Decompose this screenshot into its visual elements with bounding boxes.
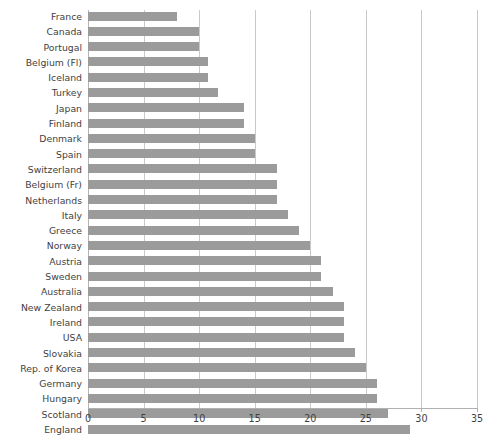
x-axis-tick-labels: 05101520253035	[0, 413, 499, 433]
bar-row: Netherlands	[0, 194, 499, 209]
bar	[88, 394, 377, 403]
bar-row: Finland	[0, 117, 499, 132]
bar	[88, 317, 344, 326]
category-label: Belgium (Fl)	[0, 56, 82, 69]
category-label: Sweden	[0, 270, 82, 283]
bar	[88, 12, 177, 21]
category-label: Italy	[0, 209, 82, 222]
category-label: Finland	[0, 117, 82, 130]
bar-row: Turkey	[0, 86, 499, 101]
category-label: Rep. of Korea	[0, 362, 82, 375]
bar	[88, 287, 333, 296]
bar-row: Belgium (Fr)	[0, 178, 499, 193]
bar	[88, 88, 218, 97]
bar-row: Denmark	[0, 132, 499, 147]
bar-row: Italy	[0, 209, 499, 224]
x-tick-label: 10	[179, 413, 219, 424]
bar-row: New Zealand	[0, 301, 499, 316]
bar	[88, 333, 344, 342]
x-tick-label: 25	[346, 413, 386, 424]
bar-row: Sweden	[0, 270, 499, 285]
category-label: Iceland	[0, 71, 82, 84]
category-label: Turkey	[0, 86, 82, 99]
bar	[88, 272, 321, 281]
category-label: Austria	[0, 255, 82, 268]
category-label: USA	[0, 331, 82, 344]
bar-row: Switzerland	[0, 163, 499, 178]
bar-row: Norway	[0, 239, 499, 254]
category-label: Norway	[0, 239, 82, 252]
bar-row: Japan	[0, 102, 499, 117]
x-tick-label: 0	[68, 413, 108, 424]
category-label: Spain	[0, 148, 82, 161]
bar-row: Iceland	[0, 71, 499, 86]
bar-row: France	[0, 10, 499, 25]
bar-row: USA	[0, 331, 499, 346]
category-label: Ireland	[0, 316, 82, 329]
x-tick-label: 20	[290, 413, 330, 424]
bar	[88, 226, 299, 235]
bar	[88, 348, 355, 357]
bar-row: Slovakia	[0, 347, 499, 362]
bar-row: Portugal	[0, 41, 499, 56]
bar-row: Hungary	[0, 392, 499, 407]
category-label: New Zealand	[0, 301, 82, 314]
bar-row: Australia	[0, 285, 499, 300]
bar	[88, 195, 277, 204]
bar	[88, 149, 255, 158]
bar	[88, 180, 277, 189]
category-label: Netherlands	[0, 194, 82, 207]
category-label: Germany	[0, 377, 82, 390]
bar	[88, 256, 321, 265]
category-label: Slovakia	[0, 347, 82, 360]
category-label: Australia	[0, 285, 82, 298]
bar	[88, 379, 377, 388]
bar-row: Belgium (Fl)	[0, 56, 499, 71]
bar-rows: FranceCanadaPortugalBelgium (Fl)IcelandT…	[0, 10, 499, 408]
category-label: France	[0, 10, 82, 23]
bar-row: Germany	[0, 377, 499, 392]
category-label: Belgium (Fr)	[0, 178, 82, 191]
category-label: Canada	[0, 25, 82, 38]
category-label: Switzerland	[0, 163, 82, 176]
bar-row: Austria	[0, 255, 499, 270]
bar	[88, 134, 255, 143]
x-tick-label: 5	[124, 413, 164, 424]
bar	[88, 241, 310, 250]
bar-row: Canada	[0, 25, 499, 40]
bar-chart: FranceCanadaPortugalBelgium (Fl)IcelandT…	[0, 0, 499, 440]
x-tick-label: 30	[401, 413, 441, 424]
bar-row: Ireland	[0, 316, 499, 331]
bar	[88, 27, 199, 36]
x-tick-label: 15	[235, 413, 275, 424]
bar-row: Spain	[0, 148, 499, 163]
bar-row: Rep. of Korea	[0, 362, 499, 377]
bar	[88, 210, 288, 219]
category-label: Portugal	[0, 41, 82, 54]
category-label: Greece	[0, 224, 82, 237]
bar	[88, 57, 208, 66]
bar	[88, 103, 244, 112]
x-tick-label: 35	[457, 413, 497, 424]
bar	[88, 73, 208, 82]
bar	[88, 164, 277, 173]
bar	[88, 119, 244, 128]
category-label: Denmark	[0, 132, 82, 145]
category-label: Japan	[0, 102, 82, 115]
bar-row: Greece	[0, 224, 499, 239]
bar	[88, 42, 199, 51]
category-label: Hungary	[0, 392, 82, 405]
bar	[88, 302, 344, 311]
bar	[88, 363, 366, 372]
